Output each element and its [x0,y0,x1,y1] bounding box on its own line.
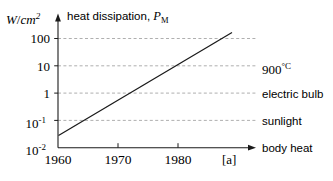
y-tick-label-0_01-exponent: -2 [39,142,47,152]
x-tick-label-1960: 1960 [31,153,85,167]
x-tick-label-1980: 1980 [151,153,205,167]
gridlines [58,39,256,121]
y-axis-arrowhead [55,14,61,22]
annotation-900c-text: 900 [262,62,282,77]
y-tick-label-1: 1 [4,87,50,100]
y-tick-label-100: 100 [4,32,50,45]
y-tick-label-100-text: 100 [31,31,51,46]
x-axis-unit-text: [a] [222,152,236,167]
annotation-body-heat: body heat [262,142,313,155]
y-tick-label-0_1-text: 10 [26,116,39,131]
x-tick-label-1980-text: 1980 [165,152,192,167]
annotation-electric-bulb-text: electric bulb [262,88,323,100]
y-tick-label-10-text: 10 [37,59,50,74]
annotation-900c: 900°C [262,60,291,76]
chart-figure: W/cm2 heat dissipation, PM [0,0,333,181]
y-tick-label-10: 10 [4,60,50,73]
y-axis-ticks [54,39,58,121]
x-tick-label-1970-text: 1970 [105,152,132,167]
y-tick-label-0_1: 10-1 [0,114,46,130]
x-axis-ticks [118,143,178,148]
x-tick-label-1970: 1970 [91,153,145,167]
annotation-900c-unit: °C [282,61,292,71]
x-axis-arrowhead [248,145,256,151]
annotation-sunlight: sunlight [262,115,302,128]
y-tick-label-0_1-exponent: -1 [39,115,47,125]
x-tick-label-1960-text: 1960 [45,152,72,167]
x-axis-unit-label: [a] [222,153,236,167]
y-tick-label-1-text: 1 [44,86,51,101]
annotation-body-heat-text: body heat [262,142,313,154]
annotation-electric-bulb: electric bulb [262,88,323,101]
annotation-sunlight-text: sunlight [262,115,302,127]
y-axis [55,14,61,148]
x-axis [58,145,256,151]
